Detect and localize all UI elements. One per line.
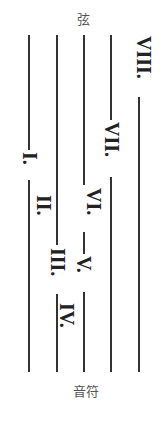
- string-3-upper: [83, 35, 85, 185]
- string-5: [138, 97, 140, 372]
- label-note-5: V.: [74, 256, 94, 273]
- bottom-caption-notes: 音符: [70, 381, 102, 400]
- label-note-7: VII.: [102, 122, 122, 157]
- label-note-1: I.: [20, 152, 40, 165]
- string-3-lower: [83, 292, 85, 372]
- string-4-lower: [110, 177, 112, 372]
- label-note-4: IV.: [57, 303, 77, 328]
- string-1-upper: [28, 35, 30, 150]
- string-1-lower: [28, 180, 30, 372]
- label-note-3: III.: [48, 248, 68, 276]
- string-2-upper: [56, 35, 58, 245]
- label-note-2: II.: [34, 195, 54, 216]
- label-note-8: VIII.: [134, 36, 154, 79]
- string-3-middle: [83, 232, 85, 254]
- string-4-upper: [110, 35, 112, 120]
- label-note-6: VI.: [84, 188, 104, 215]
- top-caption-strings: 弦: [73, 9, 93, 28]
